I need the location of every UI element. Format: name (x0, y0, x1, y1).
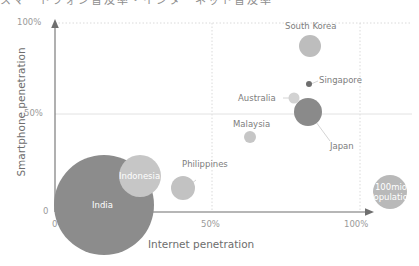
bubble-label-india: India (92, 200, 113, 210)
bubble-chart-figure: スマートフォン普及率・インターネット普及率 (0, 0, 419, 266)
y-tick-100: 100% (17, 17, 41, 27)
bubble-label-philippines: Philippines (182, 159, 228, 169)
bubble-japan (294, 98, 322, 126)
bubble-label-indonesia: Indonesia (119, 171, 160, 181)
x-tick-0: 0 (52, 219, 57, 229)
bubble-label-singapore: Singapore (319, 75, 362, 85)
x-tick-100: 100% (344, 219, 368, 229)
plot-area: 100% 50% 0 0 50% 100% Internet penetrati… (0, 0, 419, 266)
bubble-label-japan: Japan (330, 141, 354, 151)
bubble-malaysia (244, 131, 256, 143)
x-axis-title: Internet penetration (148, 238, 254, 250)
legend-reference-line1: 100mio (363, 182, 419, 192)
bubble-philippines (171, 176, 195, 200)
y-tick-0: 0 (43, 206, 48, 216)
bubble-south-korea (299, 35, 321, 57)
bubble-label-australia: Australia (238, 93, 276, 103)
x-tick-50: 50% (201, 219, 220, 229)
bubble-label-malaysia: Malaysia (233, 119, 270, 129)
y-axis-title: Smartphone penetration (15, 47, 27, 177)
legend-reference-label: 100mio Population (363, 182, 419, 202)
bubble-australia (289, 93, 300, 104)
legend-reference-line2: Population (363, 192, 419, 202)
bubble-label-south-korea: South Korea (285, 21, 337, 31)
bubble-singapore (306, 81, 312, 87)
